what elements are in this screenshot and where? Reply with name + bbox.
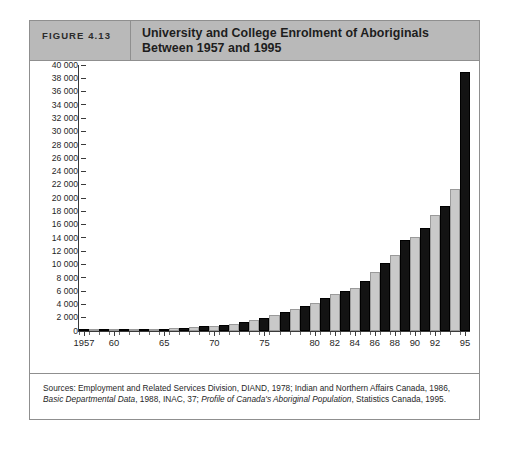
x-axis-line — [78, 331, 470, 332]
bar — [179, 328, 189, 331]
x-axis-tick-label: 1957 — [74, 338, 95, 347]
figure-number-cell: FIGURE 4.13 — [30, 21, 131, 60]
y-axis-tick-label: 34 000 — [52, 101, 78, 110]
figure-container: FIGURE 4.13 University and College Enrol… — [29, 20, 480, 420]
bar — [310, 303, 320, 331]
y-axis-tick-label: 26 000 — [52, 154, 78, 163]
x-axis-minor-tick — [109, 332, 110, 335]
chart-plot-area: 02 0004 0006 0008 00010 00012 00014 0001… — [30, 61, 479, 372]
x-axis-minor-tick — [139, 332, 140, 335]
bar — [119, 329, 129, 331]
x-axis-minor-tick — [450, 332, 451, 335]
x-axis-minor-tick — [219, 332, 220, 335]
bar — [280, 312, 290, 331]
bar — [440, 206, 450, 331]
y-axis-tick-label: 20 000 — [52, 194, 78, 203]
x-axis-minor-tick — [390, 332, 391, 335]
y-axis-tick-label: 36 000 — [52, 87, 78, 96]
x-axis-minor-tick — [119, 332, 120, 335]
x-axis-minor-tick — [430, 332, 431, 335]
figure-number-label: FIGURE 4.13 — [42, 30, 111, 41]
x-axis-tick-label: 90 — [410, 338, 420, 347]
bar — [390, 255, 400, 331]
bar — [460, 72, 470, 331]
y-axis-tick-label: 0 — [73, 327, 78, 336]
x-axis-minor-tick — [159, 332, 160, 335]
source-prefix: Sources: Employment and Related Services… — [43, 383, 450, 393]
bar — [290, 309, 300, 331]
y-axis-tick-label: 16 000 — [52, 220, 78, 229]
y-axis-tick-label: 4 000 — [56, 300, 78, 309]
bar — [380, 263, 390, 331]
x-axis-minor-tick — [460, 332, 461, 335]
x-axis-minor-tick — [420, 332, 421, 335]
bar — [410, 237, 420, 331]
bar — [229, 324, 239, 331]
x-axis-tick-mark — [214, 332, 215, 336]
y-axis-tick-label: 24 000 — [52, 167, 78, 176]
source-italic-title-2: Profile of Canada's Aboriginal Populatio… — [201, 394, 351, 404]
x-axis-tick-label: 84 — [349, 338, 359, 347]
bar — [149, 329, 159, 331]
bar-series — [79, 65, 470, 331]
x-axis-minor-tick — [199, 332, 200, 335]
x-axis-minor-tick — [280, 332, 281, 335]
x-axis-tick-mark — [355, 332, 356, 336]
figure-header: FIGURE 4.13 University and College Enrol… — [30, 21, 479, 61]
x-axis-tick-mark — [84, 332, 85, 336]
bar — [239, 322, 249, 331]
source-mid: , 1988, INAC, 37; — [135, 394, 201, 404]
bar — [89, 329, 99, 331]
y-axis-tick-label: 12 000 — [52, 247, 78, 256]
x-axis-minor-tick — [300, 332, 301, 335]
bar — [269, 315, 279, 331]
source-divider — [30, 373, 479, 374]
source-note: Sources: Employment and Related Services… — [43, 383, 465, 406]
bar — [360, 281, 370, 331]
source-suffix: , Statistics Canada, 1995. — [351, 394, 446, 404]
bar — [259, 318, 269, 331]
y-axis-tick-label: 14 000 — [52, 234, 78, 243]
x-axis-tick-mark — [375, 332, 376, 336]
x-axis-minor-tick — [380, 332, 381, 335]
x-axis-tick-mark — [435, 332, 436, 336]
bar — [79, 329, 89, 331]
x-axis-tick-label: 86 — [370, 338, 380, 347]
bar — [430, 215, 440, 331]
x-axis-tick-mark — [415, 332, 416, 336]
x-axis-tick-mark — [465, 332, 466, 336]
figure-title: University and College Enrolment of Abor… — [142, 26, 469, 56]
bar — [219, 325, 229, 331]
x-axis-minor-tick — [400, 332, 401, 335]
x-axis-minor-tick — [79, 332, 80, 335]
bar — [420, 228, 430, 331]
x-axis-minor-tick — [350, 332, 351, 335]
y-axis-tick-label: 40 000 — [52, 61, 78, 70]
bar — [300, 306, 310, 331]
bar — [139, 329, 149, 331]
bar — [370, 272, 380, 331]
x-axis-minor-tick — [149, 332, 150, 335]
x-axis-tick-mark — [315, 332, 316, 336]
bar — [350, 288, 360, 331]
x-axis-minor-tick — [259, 332, 260, 335]
source-italic-title-1: Basic Departmental Data — [43, 394, 135, 404]
figure-title-cell: University and College Enrolment of Abor… — [131, 21, 479, 60]
x-axis-tick-mark — [335, 332, 336, 336]
bar — [109, 329, 119, 331]
x-axis-minor-tick — [440, 332, 441, 335]
x-axis-minor-tick — [179, 332, 180, 335]
y-axis-tick-label: 28 000 — [52, 141, 78, 150]
x-axis-tick-label: 80 — [309, 338, 319, 347]
x-axis-minor-tick — [239, 332, 240, 335]
x-axis-minor-tick — [310, 332, 311, 335]
x-axis-tick-mark — [395, 332, 396, 336]
x-axis-minor-tick — [290, 332, 291, 335]
x-axis-minor-tick — [370, 332, 371, 335]
bar — [169, 328, 179, 331]
x-axis-minor-tick — [89, 332, 90, 335]
bar — [129, 329, 139, 331]
x-axis-tick-label: 70 — [209, 338, 219, 347]
x-axis-tick-label: 65 — [159, 338, 169, 347]
x-axis-minor-tick — [189, 332, 190, 335]
